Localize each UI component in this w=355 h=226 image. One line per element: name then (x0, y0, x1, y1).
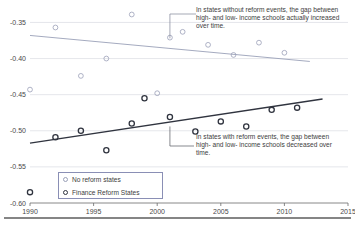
trend-line-0 (30, 35, 310, 61)
annotation-no-reform: In states without reform events, the gap… (196, 6, 346, 31)
open-circle-dark-icon (63, 190, 68, 195)
legend-label-finance-reform: Finance Reform States (72, 189, 139, 196)
x-tick-label: 2015 (340, 208, 355, 215)
scatter-chart: -0.35-0.40-0.45-0.50-0.55-0.601990199520… (0, 0, 355, 226)
y-tick-label: -0.35 (10, 19, 26, 26)
data-point-series-1 (269, 107, 274, 112)
data-point-series-1 (244, 124, 249, 129)
x-tick-label: 2010 (277, 208, 293, 215)
data-point-series-0 (282, 50, 287, 55)
data-point-series-1 (104, 148, 109, 153)
legend-item-no-reform: No reform states (59, 173, 162, 186)
data-point-series-1 (295, 105, 300, 110)
data-point-series-0 (53, 25, 58, 30)
legend-item-finance-reform: Finance Reform States (59, 186, 162, 199)
data-point-series-0 (257, 40, 262, 45)
y-tick-label: -0.55 (10, 163, 26, 170)
x-tick-label: 1990 (22, 208, 38, 215)
plot-area: -0.35-0.40-0.45-0.50-0.55-0.601990199520… (0, 0, 355, 226)
y-tick-label: -0.60 (10, 200, 26, 207)
leader-line-lower (170, 126, 194, 146)
y-tick-label: -0.50 (10, 127, 26, 134)
x-tick-label: 2005 (213, 208, 229, 215)
data-point-series-0 (78, 73, 83, 78)
data-point-series-0 (206, 42, 211, 47)
leader-line-upper (170, 14, 196, 38)
open-circle-light-icon (63, 177, 68, 182)
data-point-series-0 (129, 12, 134, 17)
data-point-series-1 (167, 114, 172, 119)
data-point-series-0 (180, 29, 185, 34)
chart-legend: No reform states Finance Reform States (58, 172, 163, 199)
data-point-series-1 (142, 96, 147, 101)
x-tick-label: 2000 (149, 208, 165, 215)
annotation-reform: In states with reform events, the gap be… (196, 133, 336, 158)
data-point-series-1 (218, 119, 223, 124)
legend-label-no-reform: No reform states (72, 176, 121, 183)
data-point-series-1 (129, 121, 134, 126)
y-tick-label: -0.45 (10, 91, 26, 98)
data-point-series-0 (28, 87, 33, 92)
x-tick-label: 1995 (86, 208, 102, 215)
data-point-series-1 (27, 190, 32, 195)
y-tick-label: -0.40 (10, 55, 26, 62)
